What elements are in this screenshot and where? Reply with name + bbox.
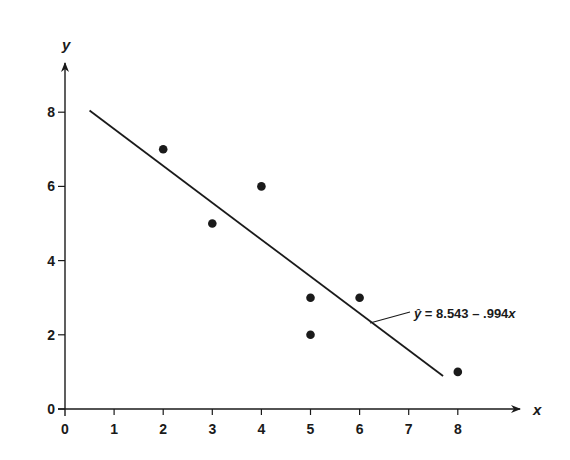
regression-equation: ŷ = 8.543 – .994x (413, 306, 516, 321)
x-tick-label: 5 (307, 421, 315, 437)
equation-leader-line (370, 312, 410, 323)
y-axis-label: y (61, 36, 71, 53)
x-ticks: 012345678 (61, 409, 462, 437)
y-ticks: 02468 (47, 104, 65, 417)
regression-line (90, 110, 444, 376)
y-tick-label: 0 (47, 401, 55, 417)
scatter-chart: y x 012345678 02468 ŷ = 8.543 – .994x (0, 0, 570, 460)
data-point (208, 219, 217, 228)
data-point (355, 293, 364, 302)
x-tick-label: 3 (208, 421, 216, 437)
y-tick-label: 8 (47, 104, 55, 120)
x-tick-label: 8 (454, 421, 462, 437)
x-tick-label: 6 (356, 421, 364, 437)
x-tick-label: 0 (61, 421, 69, 437)
x-tick-label: 2 (159, 421, 167, 437)
x-tick-label: 4 (258, 421, 266, 437)
y-tick-label: 4 (47, 253, 55, 269)
x-axis-label: x (532, 401, 542, 418)
x-tick-label: 7 (405, 421, 413, 437)
data-point (257, 182, 266, 191)
y-tick-label: 6 (47, 178, 55, 194)
data-point (454, 368, 463, 377)
data-point (306, 293, 315, 302)
data-points (159, 145, 462, 376)
y-tick-label: 2 (47, 327, 55, 343)
data-point (159, 145, 168, 154)
x-tick-label: 1 (110, 421, 118, 437)
data-point (306, 331, 315, 340)
